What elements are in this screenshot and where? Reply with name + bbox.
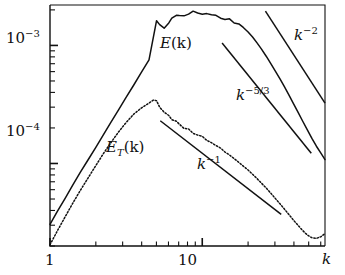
energy-spectrum-figure: 10−3 10−4 1 10 k E(k) ET(k) k−2 k−5/3 k−… [0, 0, 345, 275]
series-label-et: ET(k) [106, 140, 144, 158]
x-tick-label-10: 10 [178, 253, 197, 268]
y-tick-label-1e-4: 10−4 [6, 122, 40, 139]
x-axis-title: k [322, 252, 331, 267]
y-tick-label-1e-3: 10−3 [6, 29, 40, 46]
x-tick-label-1: 1 [45, 253, 55, 268]
slope-label-k-1: k−1 [197, 155, 221, 172]
slope-label-k-2: k−2 [294, 26, 318, 43]
series-label-ek: E(k) [160, 36, 192, 51]
slope-label-k-5-3: k−5/3 [236, 86, 270, 103]
